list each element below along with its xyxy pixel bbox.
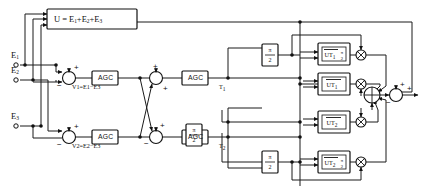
agc-bottom-1-label: AGC [98, 133, 113, 140]
text-layer: U=E1+E2+E3 E1 E2 E3 V1=E1−E3 V2=E2−E3 AG… [0, 0, 425, 196]
sign-v2-minus: − [57, 140, 62, 149]
phase-ut2-den: 2 [269, 164, 272, 170]
svg-text:E2: E2 [11, 65, 19, 75]
label-e2-sub: 2 [16, 69, 19, 75]
agc-labels: AGC AGC AGC AGC [98, 74, 203, 140]
agc-bottom-2-label: AGC [188, 133, 203, 140]
agc-top-2-label: AGC [188, 74, 203, 81]
ut2-quad-frac-den: 2 [341, 164, 344, 169]
sign-crosstop-plus-a: + [153, 62, 158, 71]
phase-fraction-labels: π 2 π 2 π 2 [192, 47, 271, 171]
svg-text:E1: E1 [11, 50, 19, 60]
ut1-quad-frac-num: π [341, 50, 344, 55]
ut2-quad-frac-num: π [341, 158, 344, 163]
sign-crossbot-minus: − [144, 139, 149, 148]
sign-v1-minus: − [57, 81, 62, 90]
label-e3-sub: 3 [16, 115, 19, 121]
ut2-base: UT [327, 119, 335, 126]
sum-eq: = [62, 13, 67, 23]
sign-v1-plus: + [74, 63, 79, 72]
input-labels: E1 E2 E3 [11, 50, 19, 121]
path-labels: T1 T2 [219, 83, 226, 151]
ut1-base: UT [327, 81, 335, 88]
svg-text:UT1: UT1 [327, 81, 338, 90]
phase-mid-den: 2 [193, 137, 196, 143]
v1-label: V1=E1−E3 [72, 83, 100, 90]
sign-out-plus: + [400, 80, 405, 89]
t2-sub: 2 [223, 145, 226, 151]
phase-ut1-den: 2 [269, 57, 272, 63]
ut-block-labels: UT1 π 2 UT1 UT2 UT2 π 2 [322, 47, 346, 169]
sign-crossbot-plus: + [160, 121, 165, 130]
t1-sub: 1 [223, 86, 226, 92]
ut1-sub: 1 [335, 84, 338, 90]
sum-u: U [54, 13, 60, 23]
ut2-quad-sub: 2 [333, 162, 336, 168]
svg-text:T1: T1 [219, 83, 226, 92]
v2-label: V2=E2−E3 [72, 142, 100, 149]
label-e1-sub: 1 [16, 54, 19, 60]
ut2-quad-base: UT [325, 159, 333, 166]
phase-ut2-num: π [268, 154, 271, 160]
difference-labels: V1=E1−E3 V2=E2−E3 [72, 83, 100, 149]
sign-v2-plus: + [74, 122, 79, 131]
phase-mid-num: π [192, 127, 195, 133]
sign-crosstop-plus-b: + [163, 84, 168, 93]
agc-top-1-label: AGC [98, 74, 113, 81]
svg-text:UT2: UT2 [325, 159, 336, 168]
ut1-quad-sub: 1 [333, 54, 336, 60]
sum-e3-sub: 3 [100, 18, 103, 24]
sum-box-label: U=E1+E2+E3 [54, 13, 103, 23]
ut2-sub: 2 [335, 122, 338, 128]
svg-text:UT1: UT1 [325, 51, 336, 60]
svg-text:UT2: UT2 [327, 119, 338, 128]
phase-ut1-num: π [268, 47, 271, 53]
block-diagram-canvas: U=E1+E2+E3 E1 E2 E3 V1=E1−E3 V2=E2−E3 AG… [0, 0, 425, 196]
svg-text:E3: E3 [11, 111, 19, 121]
ut1-quad-base: UT [325, 51, 333, 58]
svg-text:U=E1+E2+E3: U=E1+E2+E3 [54, 13, 103, 23]
ut1-quad-frac-den: 2 [341, 56, 344, 61]
sign-final-plus: + [407, 84, 412, 93]
svg-text:T2: T2 [219, 142, 226, 151]
sign-out-minus: − [386, 98, 391, 107]
